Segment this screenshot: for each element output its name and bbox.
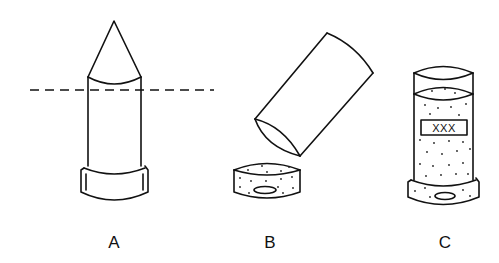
- panel-label-a: A: [99, 233, 129, 253]
- disc-top-back: [234, 164, 300, 171]
- tube-far-end: [327, 33, 373, 73]
- panel-c-drawing: XXX: [408, 67, 479, 205]
- tube-top-back: [414, 67, 473, 74]
- tube-upper-edge: [255, 33, 327, 119]
- label-box-text: XXX: [432, 122, 456, 134]
- tube-top-front: [414, 73, 473, 80]
- cap-top-arc: [411, 180, 476, 186]
- disc-stipple: [239, 165, 294, 194]
- tube-lower-edge: [300, 73, 373, 156]
- fill-stipple: [414, 88, 471, 198]
- panel-label-b: B: [255, 233, 285, 253]
- cut-end-upper: [255, 119, 300, 156]
- diagram-canvas: XXX: [0, 0, 499, 263]
- cap-top-arc: [84, 168, 145, 174]
- cone-tip: [88, 21, 141, 77]
- disc-hole: [254, 187, 276, 194]
- fill-surface-front: [414, 94, 473, 100]
- fill-surface-back: [414, 88, 473, 95]
- panel-a-drawing: [30, 21, 214, 200]
- cap-hole: [435, 193, 455, 200]
- panel-b-drawing: [234, 33, 373, 198]
- cut-end-lower: [255, 119, 300, 156]
- panel-label-c: C: [430, 233, 460, 253]
- cone-base-arc: [88, 77, 141, 84]
